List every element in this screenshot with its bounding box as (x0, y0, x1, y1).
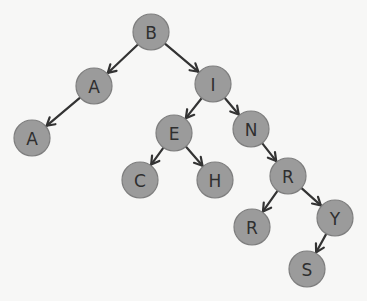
edge-arrow (224, 97, 239, 114)
edge-arrow (186, 97, 203, 118)
node-label: I (210, 75, 215, 95)
tree-node: R (234, 209, 270, 245)
edge-arrow (47, 97, 81, 126)
edge-arrow (108, 44, 139, 73)
node-label: H (209, 171, 222, 191)
node-label: A (88, 77, 100, 97)
tree-node: R (270, 158, 306, 194)
edge-line (108, 44, 139, 73)
edge-arrow (151, 147, 164, 165)
edge-arrow (316, 233, 327, 252)
tree-node: N (233, 111, 269, 147)
edge-arrow (301, 187, 321, 205)
node-label: C (134, 171, 146, 191)
node-label: B (145, 23, 157, 43)
tree-node: H (197, 162, 233, 198)
edge-arrow (262, 142, 277, 161)
tree-node: E (156, 115, 192, 151)
tree-node: C (122, 162, 158, 198)
tree-node: Y (317, 200, 353, 236)
nodes-layer: BAIAENCHRRYS (14, 14, 353, 287)
edge-line (47, 97, 81, 126)
node-label: S (302, 260, 313, 280)
tree-node: A (76, 68, 112, 104)
edge-arrow (164, 43, 198, 72)
node-label: A (26, 129, 38, 149)
node-label: R (246, 218, 258, 238)
node-label: R (282, 167, 294, 187)
node-label: E (169, 124, 180, 144)
tree-node: B (133, 14, 169, 50)
edge-arrow (263, 190, 278, 212)
edge-line (164, 43, 198, 72)
edge-arrow (185, 146, 202, 166)
node-label: N (245, 120, 258, 140)
tree-node: I (195, 66, 231, 102)
tree-node: A (14, 120, 50, 156)
node-label: Y (329, 209, 341, 229)
tree-node: S (289, 251, 325, 287)
tree-diagram: BAIAENCHRRYS (0, 0, 367, 301)
